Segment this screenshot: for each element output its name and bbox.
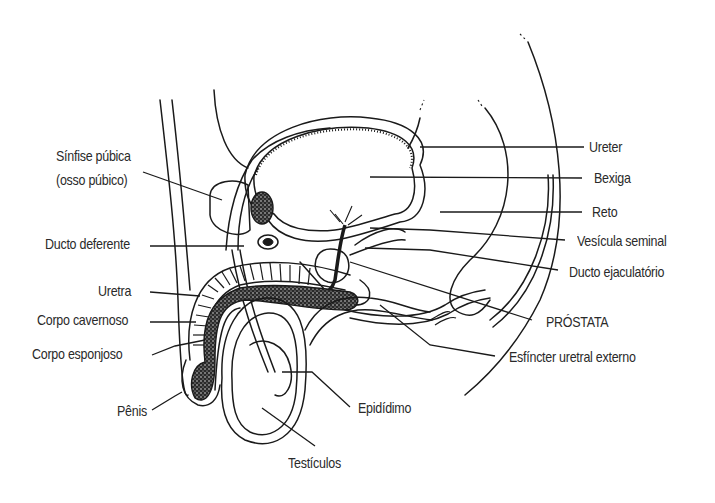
label-testiculos: Testículos <box>288 455 341 471</box>
label-esfincter-uretral-externo: Esfíncter uretral externo <box>509 349 636 365</box>
label-ducto-ejaculatorio: Ducto ejaculatório <box>569 264 664 280</box>
label-ducto-deferente: Ducto deferente <box>45 236 130 252</box>
pubic-symphysis <box>210 181 250 234</box>
label-prostata: PRÓSTATA <box>546 314 608 330</box>
label-penis: Pênis <box>117 403 147 419</box>
testis <box>222 297 432 443</box>
label-ureter: Ureter <box>589 139 622 155</box>
label-osso-pubico: (osso púbico) <box>56 172 128 188</box>
rectum-outline <box>450 34 560 395</box>
label-reto: Reto <box>592 204 617 220</box>
label-epididimo: Epidídimo <box>358 400 411 416</box>
label-uretra: Uretra <box>98 283 131 299</box>
label-bexiga: Bexiga <box>594 170 631 186</box>
penis <box>182 262 358 405</box>
pelvic-floor <box>345 290 490 325</box>
label-corpo-esponjoso: Corpo esponjoso <box>32 346 122 362</box>
bladder <box>245 100 425 298</box>
label-vesicula-seminal: Vesícula seminal <box>577 233 666 249</box>
label-sinfise-pubica: Sínfise púbica <box>56 148 131 164</box>
label-corpo-cavernoso: Corpo cavernoso <box>37 312 128 328</box>
